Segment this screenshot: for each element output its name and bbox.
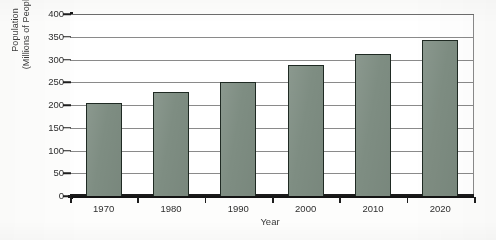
gridline-300 bbox=[70, 60, 474, 61]
plot-area bbox=[70, 14, 474, 196]
y-tick-mark-50 bbox=[63, 173, 71, 175]
bar-2000 bbox=[288, 65, 324, 196]
x-tick-label-2010: 2010 bbox=[343, 203, 403, 214]
bar-sheen bbox=[289, 66, 323, 196]
gridline-350 bbox=[70, 37, 474, 38]
bar-1970 bbox=[86, 103, 122, 196]
bar-sheen bbox=[154, 93, 188, 196]
y-axis-title-line-1: Population bbox=[10, 8, 21, 52]
x-tick-label-2020: 2020 bbox=[410, 203, 470, 214]
y-axis-tick-labels: 050100150200250300350400 bbox=[28, 14, 64, 196]
gridline-250 bbox=[70, 82, 474, 83]
y-tick-label-100: 100 bbox=[28, 146, 64, 156]
x-tick-mark-2 bbox=[205, 197, 207, 203]
gridline-150 bbox=[70, 128, 474, 129]
x-tick-mark-4 bbox=[339, 197, 341, 203]
y-tick-mark-400 bbox=[63, 13, 71, 15]
y-tick-mark-200 bbox=[63, 104, 71, 106]
bar-2020 bbox=[422, 40, 458, 196]
x-tick-label-1990: 1990 bbox=[208, 203, 268, 214]
bar-sheen bbox=[87, 104, 121, 196]
x-tick-mark-1 bbox=[137, 197, 139, 203]
x-tick-label-1970: 1970 bbox=[74, 203, 134, 214]
bar-sheen bbox=[356, 55, 390, 196]
gridline-50 bbox=[70, 173, 474, 174]
gridline-400 bbox=[70, 14, 474, 15]
y-tick-mark-100 bbox=[63, 150, 71, 152]
y-tick-mark-300 bbox=[63, 59, 71, 61]
y-tick-label-0: 0 bbox=[28, 191, 64, 201]
x-tick-label-1980: 1980 bbox=[141, 203, 201, 214]
y-tick-label-150: 150 bbox=[28, 123, 64, 133]
x-tick-mark-5 bbox=[407, 197, 409, 203]
bar-2010 bbox=[355, 54, 391, 196]
bar-1980 bbox=[153, 92, 189, 196]
bar-chart-figure: Population (Millions of People) 05010015… bbox=[0, 0, 496, 240]
x-tick-label-2000: 2000 bbox=[276, 203, 336, 214]
gridline-100 bbox=[70, 151, 474, 152]
gridline-0 bbox=[70, 194, 474, 196]
y-tick-label-350: 350 bbox=[28, 32, 64, 42]
bar-1990 bbox=[220, 82, 256, 196]
x-tick-mark-0 bbox=[70, 197, 72, 203]
y-tick-label-400: 400 bbox=[28, 9, 64, 19]
y-tick-mark-250 bbox=[63, 82, 71, 84]
x-tick-mark-3 bbox=[272, 197, 274, 203]
y-tick-mark-350 bbox=[63, 36, 71, 38]
x-axis-title: Year bbox=[0, 216, 496, 227]
y-tick-label-300: 300 bbox=[28, 55, 64, 65]
bar-sheen bbox=[221, 83, 255, 196]
gridline-200 bbox=[70, 105, 474, 106]
x-tick-mark-end bbox=[474, 197, 476, 203]
bar-sheen bbox=[423, 41, 457, 196]
y-tick-mark-150 bbox=[63, 127, 71, 129]
y-tick-label-250: 250 bbox=[28, 77, 64, 87]
y-tick-label-50: 50 bbox=[28, 168, 64, 178]
y-tick-label-200: 200 bbox=[28, 100, 64, 110]
